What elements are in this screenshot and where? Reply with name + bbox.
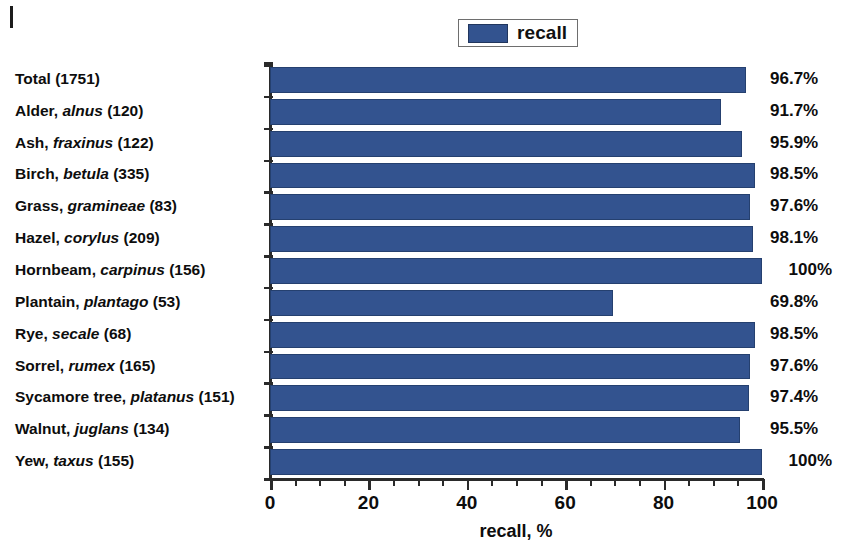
x-axis-minor-tick: [713, 479, 715, 486]
bar-recall: [270, 385, 749, 411]
bar-row: [270, 414, 762, 446]
category-label-column: Total (1751)Alder, alnus (120)Ash, fraxi…: [40, 64, 265, 478]
bar-row: [270, 319, 762, 351]
value-label: 98.5%: [770, 164, 840, 184]
x-axis-major-tick: [565, 479, 568, 490]
category-label: Alder, alnus (120): [15, 102, 265, 120]
x-axis-minor-tick: [688, 479, 690, 486]
value-label: 98.5%: [770, 324, 840, 344]
category-label: Total (1751): [15, 70, 265, 88]
y-axis-tick: [264, 446, 273, 449]
x-axis-major-tick: [762, 479, 765, 490]
y-axis-tick: [264, 160, 273, 163]
x-axis-minor-tick: [393, 479, 395, 486]
value-label: 91.7%: [770, 101, 840, 121]
bar-row: [270, 191, 762, 223]
bar-row: [270, 446, 762, 478]
value-label: 96.7%: [770, 69, 840, 89]
category-label: Hornbeam, carpinus (156): [15, 261, 265, 279]
bar-recall: [270, 322, 755, 348]
x-axis-major-tick: [270, 479, 273, 490]
x-axis-minor-tick: [737, 479, 739, 486]
x-axis-tick-label: 60: [555, 492, 576, 514]
x-axis-minor-tick: [491, 479, 493, 486]
value-label: 97.6%: [770, 356, 840, 376]
bar-row: [270, 128, 762, 160]
y-axis-tick: [264, 128, 273, 131]
category-label: Hazel, corylus (209): [15, 229, 265, 247]
x-axis-minor-tick: [541, 479, 543, 486]
value-label: 100%: [770, 451, 832, 471]
x-axis-major-tick: [467, 479, 470, 490]
bar-recall: [270, 417, 740, 443]
value-label: 97.4%: [770, 387, 840, 407]
y-axis-tick: [264, 255, 273, 258]
legend-label-recall: recall: [517, 22, 567, 44]
category-label: Grass, gramineae (83): [15, 197, 265, 215]
y-axis-tick: [264, 191, 273, 194]
bar-recall: [270, 67, 746, 93]
y-axis-tick: [264, 62, 273, 65]
x-axis-tick-label: 40: [456, 492, 477, 514]
x-axis-tick-label: 100: [746, 492, 778, 514]
bar-row: [270, 382, 762, 414]
y-axis-tick: [264, 96, 273, 99]
y-axis-tick: [264, 223, 273, 226]
bar-row: [270, 287, 762, 319]
y-axis-tick: [264, 382, 273, 385]
x-axis-tick-label: 0: [265, 492, 276, 514]
x-axis-minor-tick: [442, 479, 444, 486]
bar-row: [270, 64, 762, 96]
value-label: 100%: [770, 260, 832, 280]
value-label: 98.1%: [770, 228, 840, 248]
x-axis-minor-tick: [418, 479, 420, 486]
bar-recall: [270, 131, 742, 157]
x-axis-title: recall, %: [270, 521, 762, 542]
recall-bar-chart: recall Total (1751)Alder, alnus (120)Ash…: [0, 0, 842, 554]
bar-recall: [270, 449, 762, 475]
y-axis-tick: [264, 319, 273, 322]
x-axis-minor-tick: [639, 479, 641, 486]
bar-row: [270, 223, 762, 255]
x-axis-major-tick: [368, 479, 371, 490]
category-label: Rye, secale (68): [15, 325, 265, 343]
value-label: 95.9%: [770, 133, 840, 153]
bar-row: [270, 351, 762, 383]
bar-recall: [270, 163, 755, 189]
x-axis-tick-label: 80: [653, 492, 674, 514]
chart-legend: recall: [458, 19, 578, 47]
category-label: Ash, fraxinus (122): [15, 134, 265, 152]
bar-recall: [270, 194, 750, 220]
bar-recall: [270, 290, 613, 316]
category-label: Yew, taxus (155): [15, 452, 265, 470]
y-axis-tick: [264, 351, 273, 354]
plot-area: [270, 64, 762, 478]
x-axis-minor-tick: [516, 479, 518, 486]
y-axis-tick: [264, 414, 273, 417]
value-label-column: 96.7%91.7%95.9%98.5%97.6%98.1%100%69.8%9…: [770, 64, 842, 478]
x-axis-major-tick: [664, 479, 667, 490]
bar-recall: [270, 258, 762, 284]
x-axis-minor-tick: [614, 479, 616, 486]
x-axis-minor-tick: [590, 479, 592, 486]
bar-recall: [270, 99, 721, 125]
x-axis-minor-tick: [319, 479, 321, 486]
x-axis-minor-tick: [295, 479, 297, 486]
bar-recall: [270, 354, 750, 380]
category-label: Plantain, plantago (53): [15, 293, 265, 311]
legend-swatch-recall: [468, 24, 508, 43]
y-axis-tick: [264, 287, 273, 290]
value-label: 95.5%: [770, 419, 840, 439]
scan-artifact-mark: [10, 6, 13, 28]
x-axis-tick-label: 20: [358, 492, 379, 514]
x-axis-minor-tick: [344, 479, 346, 486]
category-label: Sorrel, rumex (165): [15, 357, 265, 375]
bar-row: [270, 255, 762, 287]
value-label: 69.8%: [770, 292, 840, 312]
category-label: Walnut, juglans (134): [15, 420, 265, 438]
bar-recall: [270, 226, 753, 252]
bar-row: [270, 96, 762, 128]
category-label: Sycamore tree, platanus (151): [15, 388, 265, 406]
bar-row: [270, 160, 762, 192]
category-label: Birch, betula (335): [15, 165, 265, 183]
